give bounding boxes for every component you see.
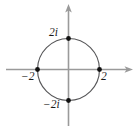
complex-plane-figure: 2i 2 −2i −2 bbox=[0, 0, 136, 128]
axis-label-negative-2i: −2i bbox=[43, 99, 60, 111]
axis-label-negative-2: −2 bbox=[21, 71, 35, 83]
figure-canvas bbox=[0, 0, 136, 128]
point-marker-bottom bbox=[66, 98, 71, 103]
point-marker-top bbox=[66, 36, 71, 41]
point-marker-left bbox=[35, 67, 40, 72]
axis-label-2: 2 bbox=[101, 71, 107, 83]
axis-label-2i: 2i bbox=[49, 27, 58, 39]
